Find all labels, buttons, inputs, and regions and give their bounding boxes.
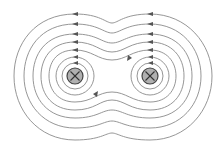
conductor-left: [67, 68, 83, 84]
enclosing-loops: [14, 14, 212, 140]
field-lines-svg: [0, 0, 221, 151]
conductor-right: [142, 68, 158, 84]
field-diagram: [0, 0, 221, 151]
